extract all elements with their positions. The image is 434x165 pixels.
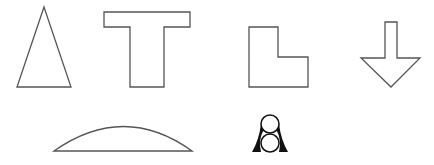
triangle-shape <box>17 7 71 87</box>
t-shape <box>104 12 190 87</box>
down-arrow-shape <box>361 22 420 87</box>
shapes-diagram <box>0 0 434 165</box>
circular-segment-shape <box>54 127 192 152</box>
two-circles-figure <box>252 115 288 152</box>
l-shape <box>249 27 308 87</box>
